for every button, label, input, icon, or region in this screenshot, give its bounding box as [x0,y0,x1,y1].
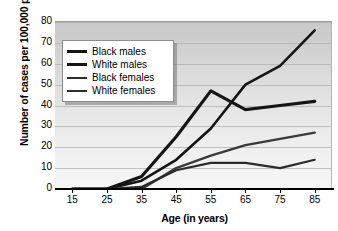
legend-item-label: White females [92,85,155,96]
legend-swatch-icon [67,77,87,79]
legend-item-black-females: Black females [67,71,169,84]
line-chart: Number of cases per 100,000 persons 0102… [0,0,338,231]
legend: Black males White males Black females Wh… [62,40,174,102]
legend-item-label: Black males [92,46,146,57]
legend-item-label: Black females [92,72,154,83]
x-axis-title: Age (in years) [57,212,332,224]
x-tick-label: 45 [161,194,191,205]
legend-item-black-males: Black males [67,45,169,58]
legend-item-white-females: White females [67,84,169,97]
x-tick-label: 75 [265,194,295,205]
x-tick-label: 55 [196,194,226,205]
x-tick-label: 65 [230,194,260,205]
legend-swatch-icon [67,63,87,66]
x-tick-label: 25 [92,194,122,205]
x-axis-tick-labels: 1525354555657585 [0,0,338,231]
x-tick-label: 35 [127,194,157,205]
legend-item-white-males: White males [67,58,169,71]
legend-swatch-icon [67,50,87,53]
x-tick-label: 15 [57,194,87,205]
x-tick-label: 85 [300,194,330,205]
legend-swatch-icon [67,90,87,92]
legend-item-label: White males [92,59,147,70]
